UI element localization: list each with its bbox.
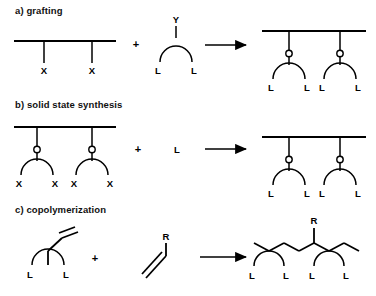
row-c-product-label-l2: L [283, 270, 289, 281]
row-c-product-label-l4: L [343, 270, 349, 281]
row-c-reactant-label-l1: L [27, 269, 33, 280]
row-c-monomer-label-r: R [163, 231, 170, 242]
row-b-product-label-l4: L [355, 188, 361, 199]
row-a-product-label-l2: L [304, 82, 310, 93]
row-c-product-label-l3: L [309, 270, 315, 281]
row-a-product-label-l4: L [355, 82, 361, 93]
row-c-reactant-allyl-chelate: L L [27, 227, 78, 280]
row-b-product-label-l3: L [319, 188, 325, 199]
row-b-reactant-metal-node-2 [89, 146, 95, 152]
row-b-reactant-label-x3: X [71, 178, 78, 189]
scheme-drawing: .bond{stroke:#000;fill:none;stroke-linec… [0, 0, 376, 296]
row-b-reactant-metal-node-1 [34, 146, 40, 152]
row-b-added-reagent-label-l: L [174, 144, 180, 155]
row-a-reactant-polymer: X X [14, 41, 116, 76]
row-b-product-metal-node-2 [337, 156, 343, 162]
row-b-reactant-label-x1: X [16, 178, 23, 189]
row-b-reactant-label-x4: X [107, 178, 114, 189]
row-c-reactant-label-l2: L [63, 269, 69, 280]
row-c-plus-sign: + [92, 252, 98, 264]
row-c-monomer-vinyl: R [142, 231, 170, 278]
row-b-product-label-l1: L [268, 188, 274, 199]
row-b-reactant-label-x2: X [52, 178, 59, 189]
row-a-ligand-label-l2: L [191, 65, 197, 76]
row-a-plus-sign: + [133, 38, 139, 50]
row-a-reactant-label-x2: X [89, 65, 96, 76]
row-a-product-label-l1: L [268, 82, 274, 93]
row-a-product-metal-node-1 [286, 50, 292, 56]
reaction-scheme-figure: a) grafting b) solid state synthesis c) … [0, 0, 376, 296]
row-c-product-copolymer: R L L L L [249, 215, 359, 281]
row-b-product-label-l2: L [304, 188, 310, 199]
row-b-reactant-polymer: X X X X [14, 127, 116, 189]
row-c-product-branch-label-r: R [311, 215, 318, 226]
row-a-product-polymer: L L L L [262, 31, 366, 93]
row-a-product-label-l3: L [319, 82, 325, 93]
row-b-product-metal-node-1 [286, 156, 292, 162]
row-a-ligand-label-l1: L [155, 65, 161, 76]
row-a-product-metal-node-2 [337, 50, 343, 56]
row-a-reactant-label-x1: X [41, 65, 48, 76]
row-c-product-label-l1: L [249, 270, 255, 281]
row-a-ligand-molecule: Y L L [155, 14, 197, 76]
row-b-plus-sign: + [135, 143, 141, 155]
row-b-product-polymer: L L L L [262, 137, 366, 199]
row-a-ligand-top-label-y: Y [173, 14, 180, 25]
